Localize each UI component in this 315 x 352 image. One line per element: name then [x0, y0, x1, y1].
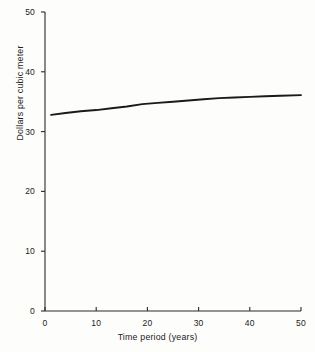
y-axis-ticks [41, 12, 45, 311]
x-tick-label: 30 [188, 318, 210, 328]
y-axis-label-container: Dollars per cubic meter [9, 0, 27, 193]
chart-figure: 01020304050 01020304050 Time period (yea… [0, 0, 315, 352]
y-tick-label: 0 [13, 306, 35, 316]
x-tick-label: 10 [85, 318, 107, 328]
axis-lines [45, 12, 301, 311]
line-chart-plot [0, 0, 315, 352]
x-tick-label: 0 [34, 318, 56, 328]
x-tick-label: 40 [239, 318, 261, 328]
y-tick-label: 10 [13, 246, 35, 256]
x-axis-label: Time period (years) [0, 332, 315, 342]
x-tick-label: 20 [136, 318, 158, 328]
x-axis-ticks [45, 307, 301, 311]
y-axis-label: Dollars per cubic meter [15, 45, 25, 140]
data-series-line [51, 95, 301, 115]
x-tick-label: 50 [290, 318, 312, 328]
